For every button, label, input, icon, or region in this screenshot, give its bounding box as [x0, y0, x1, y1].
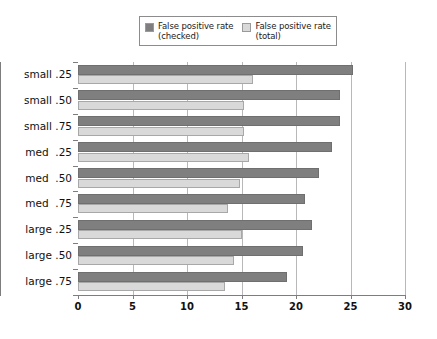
bar-checked [78, 220, 312, 230]
x-axis-tick-label: 20 [289, 301, 303, 312]
legend-label-total: False positive rate (total) [255, 21, 330, 41]
chart-legend: False positive rate (checked) False posi… [139, 16, 337, 46]
y-axis-tick [73, 243, 78, 244]
legend-swatch-total [242, 23, 251, 32]
bar-total [78, 179, 240, 188]
bar-total [78, 230, 242, 239]
x-axis-tick [405, 295, 406, 299]
bar-total [78, 127, 244, 136]
y-axis-tick [73, 88, 78, 89]
y-axis-line [0, 62, 1, 296]
x-axis-tick [187, 295, 188, 299]
y-axis-tick [73, 269, 78, 270]
y-axis-category-label: med .50 [6, 172, 72, 184]
x-axis-tick-label: 30 [398, 301, 412, 312]
y-axis-category-label: large .75 [6, 275, 72, 287]
bar-chart: False positive rate (checked) False posi… [0, 0, 437, 339]
bar-checked [78, 116, 340, 126]
gridline [351, 62, 352, 295]
x-axis-tick-label: 25 [344, 301, 358, 312]
bar-total [78, 282, 225, 291]
x-axis-tick-label: 0 [75, 301, 82, 312]
y-axis-category-label: small .75 [6, 120, 72, 132]
plot-area [78, 62, 405, 295]
x-axis-tick [242, 295, 243, 299]
y-axis-tick [73, 140, 78, 141]
legend-label-checked: False positive rate (checked) [158, 21, 233, 41]
legend-entry-checked: False positive rate (checked) [145, 21, 233, 41]
y-axis-category-label: large .25 [6, 223, 72, 235]
y-axis-category-label: large .50 [6, 249, 72, 261]
bar-checked [78, 272, 287, 282]
y-axis-category-label: med .25 [6, 146, 72, 158]
x-axis-tick [133, 295, 134, 299]
x-axis-tick-label: 15 [235, 301, 249, 312]
x-axis-tick-label: 10 [180, 301, 194, 312]
x-axis-tick [78, 295, 79, 299]
bar-total [78, 75, 253, 84]
bar-checked [78, 194, 305, 204]
gridline [405, 62, 406, 295]
y-axis-category-label: small .25 [6, 68, 72, 80]
y-axis-tick [73, 217, 78, 218]
y-axis-tick [73, 295, 78, 296]
bar-total [78, 101, 244, 110]
bar-checked [78, 168, 319, 178]
y-axis-tick [73, 166, 78, 167]
legend-entry-total: False positive rate (total) [242, 21, 330, 41]
legend-swatch-checked [145, 23, 154, 32]
y-axis-tick [73, 191, 78, 192]
bar-total [78, 153, 249, 162]
y-axis-category-label: med .75 [6, 197, 72, 209]
bar-checked [78, 65, 353, 75]
y-axis-category-label: small .50 [6, 94, 72, 106]
bar-total [78, 204, 228, 213]
y-axis-tick [73, 62, 78, 63]
x-axis-tick [296, 295, 297, 299]
bar-total [78, 256, 234, 265]
x-axis-tick-label: 5 [129, 301, 136, 312]
bar-checked [78, 90, 340, 100]
bar-checked [78, 246, 303, 256]
x-axis-tick [351, 295, 352, 299]
y-axis-tick [73, 114, 78, 115]
bar-checked [78, 142, 332, 152]
